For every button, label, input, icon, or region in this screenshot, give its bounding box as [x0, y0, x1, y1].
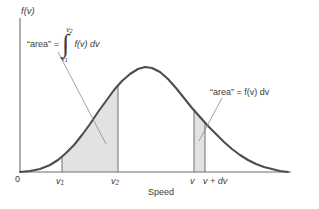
- integral-lower-limit: v1: [61, 55, 67, 63]
- distribution-curve: [20, 67, 288, 172]
- origin-tick-label: 0: [15, 175, 20, 184]
- figure-canvas: [0, 0, 319, 209]
- integral-upper-limit: v2: [66, 26, 72, 34]
- tick-label-v2: v2: [111, 177, 119, 187]
- shaded-area-v1-v2: [20, 67, 288, 172]
- speed-distribution-figure: f(v) Speed 0 v1 v2 v v + dv “area” = ∫ v…: [0, 0, 319, 209]
- left-annotation-quote: “area”: [27, 39, 51, 49]
- tick-label-v-plus-dv: v + dv: [203, 177, 227, 186]
- integral-sign-icon: ∫: [62, 35, 69, 54]
- x-axis-label: Speed: [148, 188, 174, 197]
- tick-label-v: v: [190, 177, 195, 186]
- right-area-annotation: “area” = f(v) dv: [210, 88, 269, 97]
- left-leader-line: [58, 52, 106, 144]
- y-axis-label: f(v): [21, 6, 35, 16]
- tick-label-v1: v1: [56, 177, 64, 187]
- shaded-area-v-vdv: [20, 67, 288, 172]
- integrand-expression: f(v) dv: [74, 40, 99, 49]
- left-annotation-equals: =: [54, 39, 59, 49]
- left-area-annotation: “area” = ∫ v2 v1 f(v) dv: [27, 35, 99, 54]
- integral-expression: ∫ v2 v1: [62, 35, 69, 54]
